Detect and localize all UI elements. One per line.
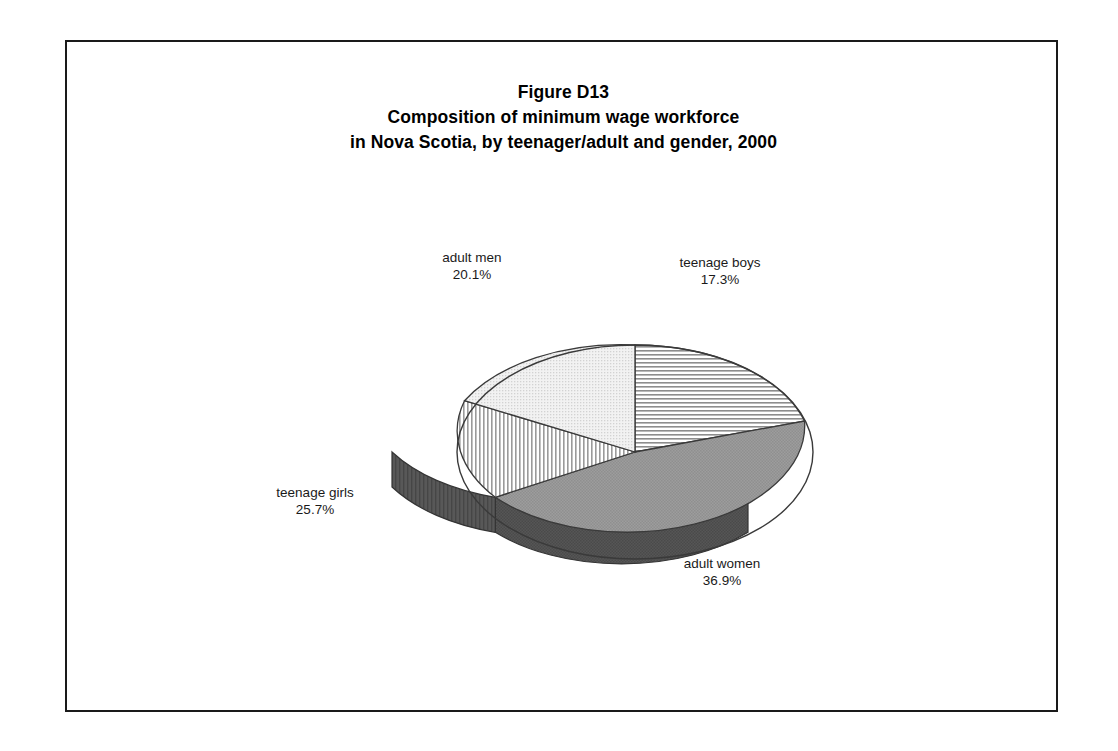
pie-chart-area: adult men 20.1% teenage boys 17.3% teena… xyxy=(67,42,1060,714)
pie-label-adult-women: adult women 36.9% xyxy=(627,555,817,589)
pie-label-teenage-boys-value: 17.3% xyxy=(635,271,805,288)
pie-label-teenage-girls-value: 25.7% xyxy=(235,501,395,518)
pie-label-adult-women-name: adult women xyxy=(627,555,817,572)
pie-label-teenage-boys: teenage boys 17.3% xyxy=(635,254,805,288)
pie-label-adult-women-value: 36.9% xyxy=(627,572,817,589)
pie-chart-svg xyxy=(67,42,1060,714)
pie-label-teenage-boys-name: teenage boys xyxy=(635,254,805,271)
pie-label-teenage-girls: teenage girls 25.7% xyxy=(235,484,395,518)
figure-root: Figure D13 Composition of minimum wage w… xyxy=(0,0,1118,751)
pie-label-teenage-girls-name: teenage girls xyxy=(235,484,395,501)
pie-label-adult-men-value: 20.1% xyxy=(397,266,547,283)
pie-label-adult-men-name: adult men xyxy=(397,249,547,266)
pie-top-faces xyxy=(457,345,805,532)
figure-border-frame: Figure D13 Composition of minimum wage w… xyxy=(65,40,1058,712)
pie-label-adult-men: adult men 20.1% xyxy=(397,249,547,283)
